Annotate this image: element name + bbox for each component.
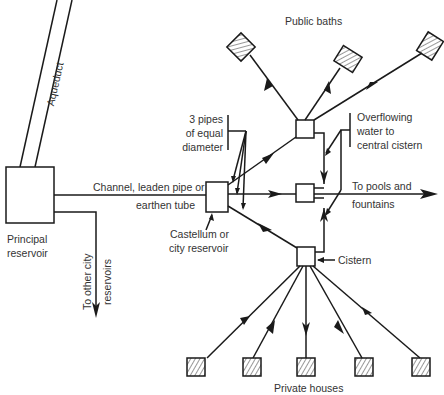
central-cistern-box [296,184,314,202]
upper-cistern-box [296,120,314,138]
private-house-4 [355,358,373,376]
private-houses-label: Private houses [274,381,343,395]
pipe-to-house-2 [253,266,303,358]
private-house-1 [187,358,205,376]
public-baths-label: Public baths [285,14,342,28]
public-bath-2 [334,46,362,73]
three-pipes-label-2: of equal [168,126,223,140]
pipe-to-bath-2 [305,68,340,120]
principal-reservoir-label-1: Principal [7,232,47,246]
three-pipes-label-1: 3 pipes [183,112,223,126]
three-pipes-label-3: diameter [168,140,223,154]
private-house-5 [412,358,430,376]
channel-label-1: Channel, leaden pipe or [93,180,205,194]
castellum-box [206,182,228,212]
pipe-to-bath-1 [250,55,298,120]
lower-cistern-box [297,247,315,266]
castellum-label-2: city reservoir [169,241,229,255]
arrow-icon [262,153,274,164]
roman-water-distribution-diagram: Aqueduct Principal reservoir Channel, le… [0,0,444,395]
pools-label-1: To pools and [352,179,412,193]
private-house-2 [243,358,261,376]
pools-label-2: fountains [352,197,395,211]
overflow-label-2: water to [357,124,394,138]
castellum-label-1: Castellum or [170,227,229,241]
overflow-label-3: central cistern [357,138,422,152]
overflow-label-connector [341,130,350,190]
private-house-3 [297,358,315,376]
other-city-label-2: reservoirs [100,259,114,305]
public-bath-3 [417,32,444,60]
principal-reservoir-label-2: reservoir [7,246,48,260]
pipe-to-house-4 [310,266,362,358]
cistern-label: Cistern [338,253,371,267]
pipe-to-house-1 [207,266,300,358]
principal-reservoir-box [6,167,54,223]
channel-label-2: earthen tube [136,198,195,212]
other-city-label-1: To other city [80,253,94,310]
overflow-label-1: Overflowing [357,110,412,124]
